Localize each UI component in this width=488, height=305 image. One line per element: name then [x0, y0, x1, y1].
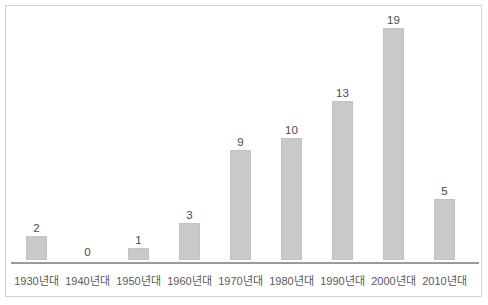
bar-value-1980: 10: [266, 124, 317, 136]
bar-group-1970[interactable]: 9 1970년대: [215, 4, 266, 296]
bar-1960[interactable]: [179, 223, 200, 260]
bar-1980[interactable]: [281, 138, 302, 260]
bar-group-1950[interactable]: 1 1950년대: [113, 4, 164, 296]
bar-group-1960[interactable]: 3 1960년대: [164, 4, 215, 296]
bar-value-1990: 13: [317, 87, 368, 99]
bar-2000[interactable]: [383, 28, 404, 260]
x-tick-label-2000: 2000년대: [365, 275, 422, 288]
x-tick-label-1980: 1980년대: [263, 275, 320, 288]
bar-1950[interactable]: [128, 248, 149, 260]
bar-group-1990[interactable]: 13 1990년대: [317, 4, 368, 296]
bar-1930[interactable]: [26, 236, 47, 260]
bar-group-2010[interactable]: 5 2010년대: [419, 4, 470, 296]
chart-screenshot: 2 1930년대 0 1940년대 1 1950년대 3 1960년대: [0, 0, 488, 305]
bar-value-1970: 9: [215, 136, 266, 148]
bar-group-2000[interactable]: 19 2000년대: [368, 4, 419, 296]
bar-value-1930: 2: [11, 222, 62, 234]
bar-1970[interactable]: [230, 150, 251, 260]
bar-value-1950: 1: [113, 234, 164, 246]
x-tick-label-2010: 2010년대: [416, 275, 473, 288]
bar-value-1960: 3: [164, 209, 215, 221]
bar-value-2000: 19: [368, 14, 419, 26]
bar-group-1930[interactable]: 2 1930년대: [11, 4, 62, 296]
bar-value-1940: 0: [62, 246, 113, 258]
bar-1990[interactable]: [332, 101, 353, 260]
bar-value-2010: 5: [419, 185, 470, 197]
bar-group-1980[interactable]: 10 1980년대: [266, 4, 317, 296]
x-tick-label-1990: 1990년대: [314, 275, 371, 288]
x-tick-label-1930: 1930년대: [8, 275, 65, 288]
chart-frame: 2 1930년대 0 1940년대 1 1950년대 3 1960년대: [5, 5, 482, 297]
x-tick-label-1970: 1970년대: [212, 275, 269, 288]
x-tick-label-1940: 1940년대: [59, 275, 116, 288]
x-tick-label-1960: 1960년대: [161, 275, 218, 288]
bar-group-1940[interactable]: 0 1940년대: [62, 4, 113, 296]
plot-area: 2 1930년대 0 1940년대 1 1950년대 3 1960년대: [6, 6, 481, 296]
x-tick-label-1950: 1950년대: [110, 275, 167, 288]
bar-2010[interactable]: [434, 199, 455, 260]
